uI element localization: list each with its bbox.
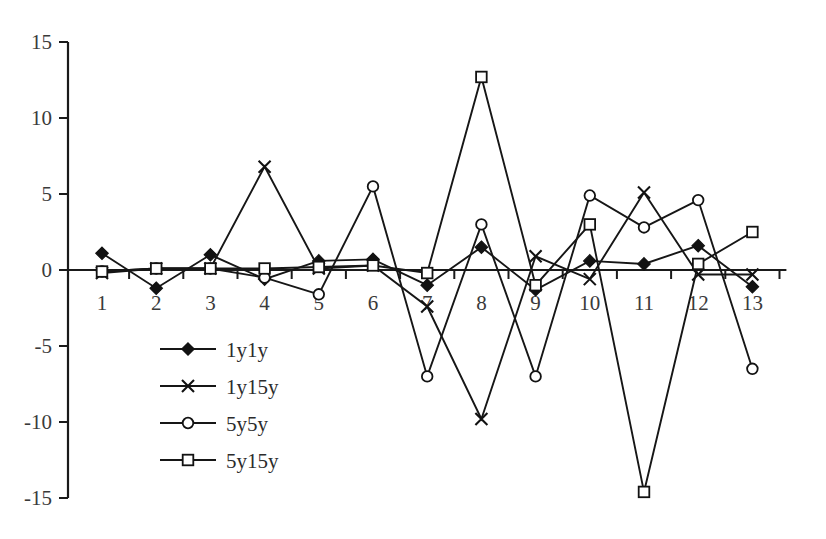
legend-marker [182, 343, 194, 355]
data-point-marker [530, 250, 542, 262]
data-point-marker [314, 289, 325, 300]
data-point-marker [584, 255, 596, 267]
legend-marker [183, 418, 194, 429]
legend-item-5y15y: 5y15y [160, 449, 279, 473]
data-point-marker [639, 487, 650, 498]
data-point-marker [368, 181, 379, 192]
y-axis-tick-label: -15 [24, 486, 52, 510]
data-point-marker [693, 259, 704, 270]
data-point-marker [638, 186, 650, 198]
data-point-marker [422, 371, 433, 382]
data-point-marker [693, 195, 704, 206]
chart-container: 151050-5-10-15 12345678910111213 1y1y1y1… [0, 0, 826, 539]
data-point-marker [259, 263, 270, 274]
x-axis-tick-label: 4 [259, 291, 270, 315]
y-axis-tick-label: 0 [42, 258, 53, 282]
legend-item-5y5y: 5y5y [160, 412, 269, 436]
x-axis-tick-label: 3 [205, 291, 216, 315]
data-point-marker [584, 273, 596, 285]
x-axis-tick-label: 1 [97, 291, 108, 315]
legend-label: 1y1y [226, 338, 269, 362]
data-point-marker [421, 279, 433, 291]
data-point-marker [530, 371, 541, 382]
x-axis-tick-label: 13 [742, 291, 763, 315]
y-axis: 151050-5-10-15 [24, 30, 68, 510]
data-point-marker [97, 266, 108, 277]
data-point-marker [638, 258, 650, 270]
data-point-marker [530, 280, 541, 291]
data-point-marker [368, 260, 379, 271]
data-point-marker [585, 219, 596, 230]
line-chart-plot: 151050-5-10-15 12345678910111213 1y1y1y1… [0, 0, 826, 539]
legend-label: 1y15y [226, 375, 279, 399]
data-point-marker [422, 268, 433, 279]
data-point-marker [205, 263, 216, 274]
legend-item-1y15y: 1y15y [160, 375, 279, 399]
data-point-marker [96, 247, 108, 259]
y-axis-tick-label: 10 [31, 106, 52, 130]
legend-marker [183, 455, 194, 466]
series-layer [96, 72, 759, 498]
data-point-marker [476, 219, 487, 230]
data-point-marker [585, 190, 596, 201]
legend-label: 5y15y [226, 449, 279, 473]
y-axis-tick-label: -5 [35, 334, 53, 358]
legend-label: 5y5y [226, 412, 269, 436]
chart-legend: 1y1y1y15y5y5y5y15y [160, 338, 279, 473]
data-point-marker [639, 222, 650, 233]
data-point-marker [747, 227, 758, 238]
data-point-marker [314, 262, 325, 273]
x-axis-tick-label: 10 [579, 291, 600, 315]
x-axis-tick-label: 11 [634, 291, 654, 315]
x-axis-tick-label: 6 [368, 291, 379, 315]
y-axis-tick-label: 15 [31, 30, 52, 54]
data-point-marker [747, 364, 758, 375]
y-axis-tick-label: -10 [24, 410, 52, 434]
legend-item-1y1y: 1y1y [160, 338, 269, 362]
y-axis-tick-label: 5 [42, 182, 53, 206]
data-point-marker [476, 72, 487, 83]
data-point-marker [475, 413, 487, 425]
data-point-marker [151, 263, 162, 274]
x-axis-tick-label: 8 [476, 291, 487, 315]
data-point-marker [259, 161, 271, 173]
